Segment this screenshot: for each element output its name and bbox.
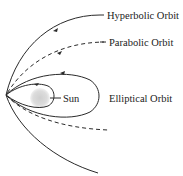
hyperbolic-arrow-icon	[53, 28, 58, 32]
hyperbolic-orbit-label: Hyperbolic Orbit	[107, 10, 179, 21]
sun	[30, 88, 50, 108]
parabolic-arrow-icon	[57, 51, 62, 55]
hyperbolic-orbit	[6, 15, 100, 173]
orbit-diagram: Hyperbolic Orbit Parabolic Orbit Ellipti…	[0, 0, 183, 176]
elliptical-orbit-label: Elliptical Orbit	[109, 93, 172, 104]
outer-elliptical-orbit	[6, 74, 99, 117]
sun-label: Sun	[63, 93, 80, 104]
parabolic-orbit-label: Parabolic Orbit	[109, 37, 174, 48]
